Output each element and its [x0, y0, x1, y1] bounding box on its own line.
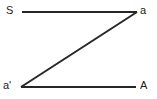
vertex-label-top-left: S [6, 5, 13, 16]
diagram-canvas: S a a' A [0, 0, 157, 99]
vertex-label-top-right: a [140, 5, 146, 16]
vertex-label-bottom-right: A [140, 80, 147, 91]
vertex-label-bottom-left: a' [3, 80, 11, 91]
z-figure-graphic [0, 0, 157, 99]
diagonal-segment-line [21, 12, 137, 87]
